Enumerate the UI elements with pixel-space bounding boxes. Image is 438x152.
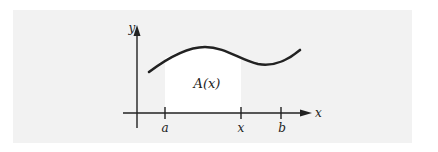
y-axis-label: y (128, 21, 136, 35)
tick-label-x: x (238, 121, 245, 135)
tick-label-a: a (161, 121, 168, 135)
x-axis-arrow-icon (300, 110, 312, 117)
area-function-diagram: y x a x b A(x) (0, 0, 438, 152)
x-axis-label: x (315, 106, 322, 120)
area-label: A(x) (193, 76, 221, 91)
tick-label-b: b (278, 121, 286, 135)
